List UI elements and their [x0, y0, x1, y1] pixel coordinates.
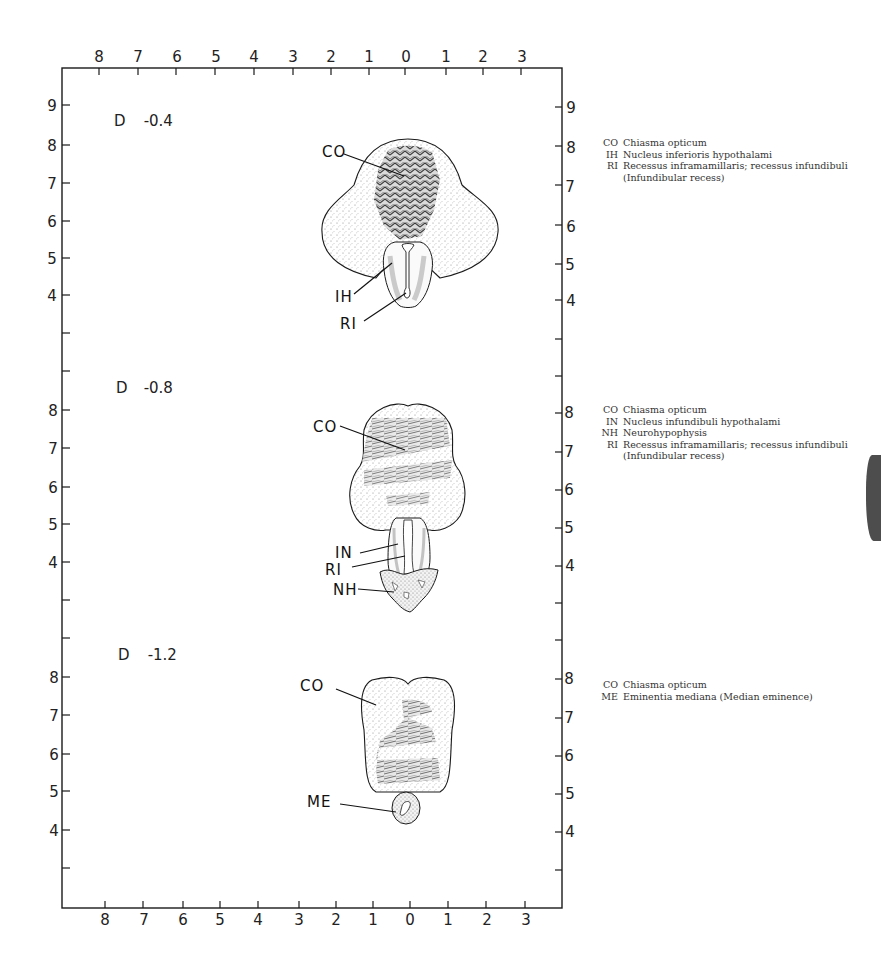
legend-panel-1: COChiasma opticum IHNucleus inferioris h… — [590, 137, 870, 183]
y-tick-label: 7 — [47, 177, 57, 192]
x-tick-label: 3 — [294, 913, 304, 928]
structure-label-ri: RI — [325, 563, 342, 578]
legend-abbr: ME — [590, 691, 623, 703]
y-tick-label: 7 — [565, 180, 575, 195]
y-tick-label: 8 — [566, 141, 576, 156]
legend-text: (Infundibular recess) — [623, 450, 870, 462]
legend-abbr — [590, 172, 623, 184]
structure-label-co: CO — [313, 420, 337, 435]
legend-text: Eminentia mediana (Median eminence) — [623, 691, 870, 703]
x-tick-label: 6 — [172, 50, 182, 65]
scan-artifact — [866, 455, 881, 541]
y-tick-label: 8 — [48, 404, 58, 419]
y-tick-label: 7 — [564, 445, 574, 460]
y-tick-label: 8 — [564, 672, 574, 687]
legend-abbr: IH — [590, 149, 623, 161]
legend-item: RIRecessus inframamillaris; recessus inf… — [590, 160, 870, 172]
y-tick-label: 8 — [49, 671, 59, 686]
level-prefix: D — [114, 112, 126, 130]
y-tick-label: 7 — [48, 442, 58, 457]
x-tick-label: 2 — [482, 913, 492, 928]
legend-text: Chiasma opticum — [623, 679, 870, 691]
legend-abbr: CO — [590, 679, 623, 691]
level-value: -0.8 — [144, 379, 173, 397]
x-tick-label: 5 — [215, 913, 225, 928]
x-tick-label: 1 — [368, 913, 378, 928]
x-tick-label: 6 — [178, 913, 188, 928]
structure-label-co: CO — [322, 145, 346, 160]
frame — [62, 68, 562, 908]
legend-text: (Infundibular recess) — [623, 172, 870, 184]
legend-text: Nucleus inferioris hypothalami — [623, 149, 870, 161]
section-d-minus-0-8 — [340, 404, 465, 612]
legend-item: COChiasma opticum — [590, 679, 870, 691]
x-tick-label: 3 — [517, 50, 527, 65]
x-tick-label: 2 — [478, 50, 488, 65]
section-d-minus-1-2 — [336, 677, 454, 824]
y-tick-label: 7 — [564, 711, 574, 726]
x-tick-label: 1 — [441, 50, 451, 65]
legend-item: IHNucleus inferioris hypothalami — [590, 149, 870, 161]
infundibular-recess — [403, 520, 414, 574]
legend-item: (Infundibular recess) — [590, 172, 870, 184]
y-tick-label: 4 — [47, 289, 57, 304]
y-tick-label: 6 — [47, 215, 57, 230]
level-value: -0.4 — [144, 112, 173, 130]
y-tick-label: 4 — [566, 294, 576, 309]
structure-label-co: CO — [300, 679, 324, 694]
atlas-plate: 8 7 6 5 4 3 2 1 0 1 2 3 8 7 6 5 4 3 2 1 … — [0, 0, 881, 979]
legend-item: INNucleus infundibuli hypothalami — [590, 416, 870, 428]
x-tick-label: 1 — [443, 913, 453, 928]
y-tick-label: 5 — [565, 258, 575, 273]
y-tick-label: 6 — [49, 748, 59, 763]
legend-text: Neurohypophysis — [623, 427, 870, 439]
legend-abbr: IN — [590, 416, 623, 428]
y-tick-label: 9 — [566, 101, 576, 116]
x-tick-label: 4 — [253, 913, 263, 928]
level-prefix: D — [118, 646, 130, 664]
structure-label-in: IN — [335, 546, 353, 561]
y-tick-label: 4 — [565, 825, 575, 840]
legend-panel-2: COChiasma opticum INNucleus infundibuli … — [590, 404, 870, 462]
x-tick-label: 0 — [405, 913, 415, 928]
x-tick-label: 7 — [133, 50, 143, 65]
x-tick-label: 2 — [326, 50, 336, 65]
legend-text: Recessus inframamillaris; recessus infun… — [623, 439, 870, 451]
legend-text: Chiasma opticum — [623, 137, 870, 149]
legend-abbr: RI — [590, 439, 623, 451]
y-tick-label: 4 — [565, 559, 575, 574]
legend-abbr: CO — [590, 137, 623, 149]
x-tick-label: 8 — [94, 50, 104, 65]
y-tick-label: 4 — [48, 556, 58, 571]
y-tick-label: 7 — [49, 709, 59, 724]
x-tick-label: 4 — [249, 50, 259, 65]
y-tick-label: 5 — [47, 252, 57, 267]
structure-label-ih: IH — [335, 290, 353, 305]
legend-text: Chiasma opticum — [623, 404, 870, 416]
structure-label-ri: RI — [340, 317, 357, 332]
legend-item: COChiasma opticum — [590, 404, 870, 416]
level-prefix: D — [116, 379, 128, 397]
x-tick-label: 8 — [100, 913, 110, 928]
x-tick-label: 7 — [139, 913, 149, 928]
right-axis-ticks — [555, 107, 562, 870]
left-axis-ticks — [62, 105, 70, 868]
bottom-axis-ticks — [105, 901, 525, 908]
y-tick-label: 8 — [564, 406, 574, 421]
legend-abbr: NH — [590, 427, 623, 439]
legend-item: MEEminentia mediana (Median eminence) — [590, 691, 870, 703]
structure-label-nh: NH — [333, 583, 358, 598]
level-label-panel-2: D-0.8 — [97, 366, 173, 411]
y-tick-label: 9 — [47, 99, 57, 114]
legend-text: Recessus inframamillaris; recessus infun… — [623, 160, 870, 172]
x-tick-label: 0 — [401, 50, 411, 65]
y-tick-label: 6 — [564, 749, 574, 764]
y-tick-label: 5 — [48, 518, 58, 533]
level-label-panel-3: D-1.2 — [99, 633, 177, 678]
x-tick-label: 3 — [521, 913, 531, 928]
y-tick-label: 4 — [49, 824, 59, 839]
legend-item: (Infundibular recess) — [590, 450, 870, 462]
y-tick-label: 5 — [49, 785, 59, 800]
x-tick-label: 1 — [364, 50, 374, 65]
legend-item: COChiasma opticum — [590, 137, 870, 149]
